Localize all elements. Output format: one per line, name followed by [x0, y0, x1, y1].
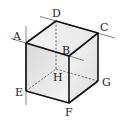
vertex-label-e: E [15, 86, 23, 99]
cube-figure: A D C B H G E F [0, 0, 124, 123]
vertex-label-d: D [52, 7, 61, 20]
cube-diagram: A D C B H G E F [0, 0, 124, 123]
vertex-label-g: G [102, 76, 111, 89]
vertex-label-b: B [62, 44, 70, 57]
vertex-label-f: F [65, 106, 73, 119]
vertex-label-c: C [100, 21, 108, 34]
vertex-label-a: A [12, 30, 22, 43]
vertex-label-h: H [53, 71, 63, 84]
